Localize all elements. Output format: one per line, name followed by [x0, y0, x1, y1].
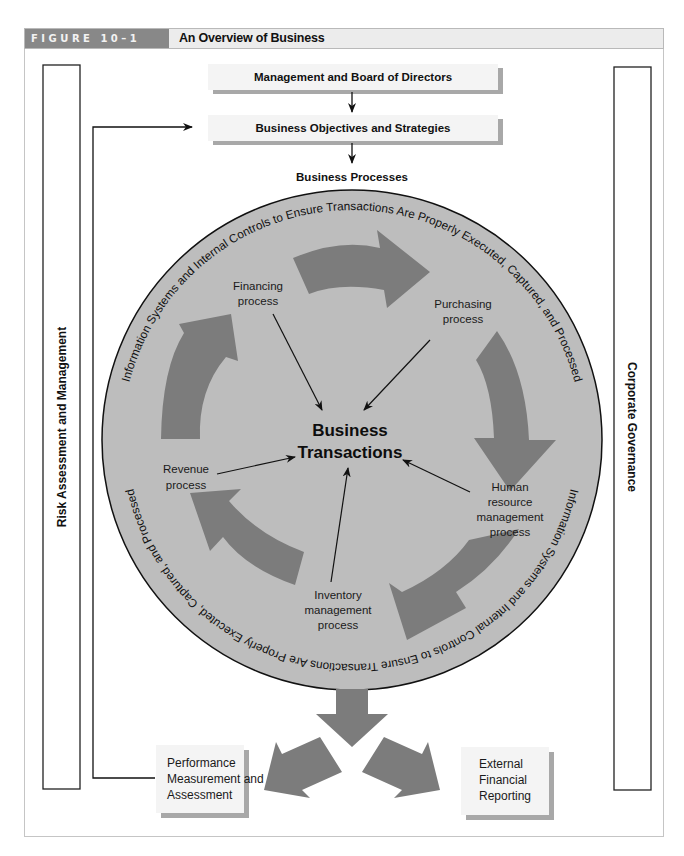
svg-text:process: process: [166, 479, 207, 491]
svg-text:resource: resource: [488, 496, 533, 508]
svg-text:process: process: [490, 526, 531, 538]
objectives-box: Business Objectives and Strategies: [208, 115, 503, 145]
svg-text:Assessment: Assessment: [167, 788, 233, 802]
svg-text:management: management: [304, 604, 372, 616]
svg-text:Purchasing: Purchasing: [434, 298, 492, 310]
svg-text:management: management: [476, 511, 544, 523]
external-financial-reporting-box: External Financial Reporting: [461, 747, 554, 820]
output-arrow-right: [362, 737, 440, 798]
objectives-label: Business Objectives and Strategies: [256, 122, 451, 134]
svg-text:Financing: Financing: [233, 280, 283, 292]
svg-text:Business: Business: [312, 421, 388, 440]
svg-text:Performance: Performance: [167, 756, 236, 770]
svg-text:process: process: [443, 313, 484, 325]
risk-assessment-panel: Risk Assessment and Management: [43, 65, 80, 789]
svg-text:process: process: [238, 295, 279, 307]
risk-assessment-label: Risk Assessment and Management: [55, 327, 69, 527]
performance-measurement-box: Performance Measurement and Assessment: [156, 745, 264, 818]
output-arrow-left: [264, 737, 342, 798]
svg-text:Reporting: Reporting: [479, 789, 531, 803]
svg-text:Human: Human: [491, 481, 528, 493]
svg-text:Revenue: Revenue: [163, 463, 209, 475]
management-label: Management and Board of Directors: [254, 71, 452, 83]
business-processes-label: Business Processes: [296, 171, 408, 183]
svg-text:Measurement and: Measurement and: [167, 772, 264, 786]
svg-text:External: External: [479, 757, 523, 771]
corporate-governance-panel: Corporate Governance: [614, 67, 651, 790]
corporate-governance-label: Corporate Governance: [625, 362, 639, 492]
output-arrows: [264, 689, 440, 798]
svg-text:Inventory: Inventory: [314, 589, 362, 601]
output-arrow-down: [316, 689, 388, 747]
business-overview-diagram: Risk Assessment and Management Corporate…: [0, 0, 684, 856]
management-box: Management and Board of Directors: [208, 64, 503, 94]
svg-text:process: process: [318, 619, 359, 631]
svg-text:Transactions: Transactions: [298, 443, 403, 462]
svg-text:Financial: Financial: [479, 773, 527, 787]
